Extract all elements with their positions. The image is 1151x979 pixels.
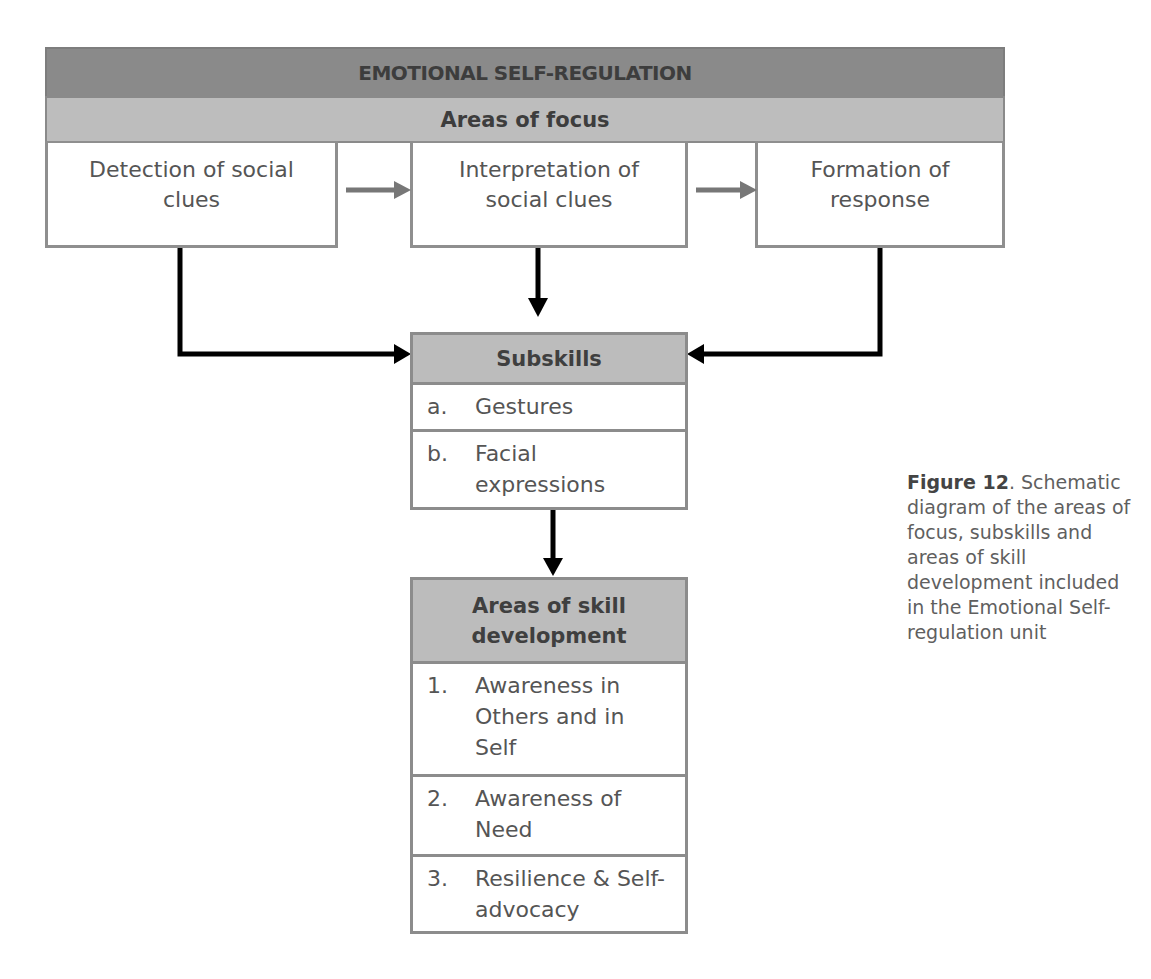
subskills-table: Subskills a. Gestures b. Facial expressi…	[410, 332, 688, 510]
figure-caption-text: Schematic diagram of the areas of focus,…	[907, 471, 1130, 643]
skill-label: Resilience & Self-advocacy	[475, 863, 685, 934]
arrow-down-icon	[528, 248, 548, 317]
subskill-marker: b.	[413, 438, 475, 510]
skill-item: 2. Awareness of Need	[413, 777, 685, 857]
skill-label: Awareness of Need	[475, 783, 685, 854]
skill-marker: 3.	[413, 863, 475, 934]
subskill-item: b. Facial expressions	[413, 432, 685, 510]
arrow-down-icon	[543, 508, 563, 576]
figure-punct: .	[1009, 471, 1015, 493]
subskill-label: Facial expressions	[475, 438, 685, 510]
subskill-marker: a.	[413, 391, 475, 429]
skill-marker: 1.	[413, 670, 475, 774]
skill-development-label: Areas of skill development	[463, 591, 635, 651]
subskill-item: a. Gestures	[413, 385, 685, 432]
flow-arrow-icon	[696, 181, 757, 199]
skill-development-table: Areas of skill development 1. Awareness …	[410, 577, 688, 934]
arrow-left-icon	[687, 248, 880, 364]
skill-item: 1. Awareness in Others and in Self	[413, 664, 685, 777]
skill-marker: 2.	[413, 783, 475, 854]
figure-label: Figure 12	[907, 471, 1009, 493]
figure-caption: Figure 12. Schematic diagram of the area…	[907, 470, 1132, 645]
subskill-label: Gestures	[475, 391, 685, 429]
arrow-right-icon	[180, 248, 411, 364]
subskills-header: Subskills	[413, 335, 685, 385]
skill-development-header: Areas of skill development	[413, 580, 685, 664]
flow-arrow-icon	[346, 181, 411, 199]
skill-item: 3. Resilience & Self-advocacy	[413, 857, 685, 934]
subskills-label: Subskills	[496, 347, 602, 371]
skill-label: Awareness in Others and in Self	[475, 670, 685, 774]
